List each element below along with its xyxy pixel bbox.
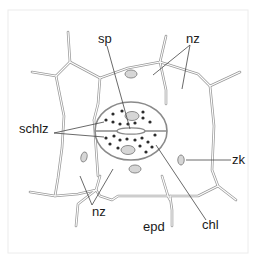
label-zk: zk xyxy=(232,152,246,167)
guard-cell-nucleus xyxy=(121,146,135,155)
nucleus-right xyxy=(178,155,184,165)
label-chl: chl xyxy=(202,217,219,232)
stomatal-pore xyxy=(117,128,145,134)
nucleus-left xyxy=(80,151,88,162)
label-epd: epd xyxy=(143,219,165,234)
guard-cells xyxy=(95,102,167,160)
label-schlz: schlz xyxy=(19,121,49,136)
label-nz-bottom: nz xyxy=(92,204,106,219)
nucleus-top xyxy=(125,70,137,78)
label-sp: sp xyxy=(98,31,112,46)
nucleus-bottom xyxy=(129,165,141,173)
stoma-diagram: sp nz schlz zk nz epd chl xyxy=(0,0,262,263)
label-nz-top: nz xyxy=(186,31,200,46)
